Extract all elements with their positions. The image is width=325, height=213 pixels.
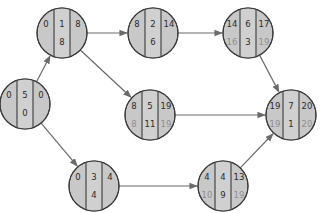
node-late-start-value: 19 <box>270 119 281 129</box>
node-early-finish-value: 0 <box>38 90 43 100</box>
node-late-finish-value: 19 <box>234 190 245 200</box>
node-slack-value: 9 <box>220 190 225 200</box>
node-early-start-value: 8 <box>134 19 139 29</box>
node-early-start-value: 0 <box>43 19 48 29</box>
node-late-finish-value: 19 <box>161 119 172 129</box>
node-e: 851981119 <box>125 90 175 140</box>
node-slack-value: 4 <box>91 190 96 200</box>
nodes-layer: 0500018882146146171631985198111919720191… <box>0 8 316 211</box>
node-late-start-value: 16 <box>227 37 238 47</box>
node-early-start-value: 14 <box>227 19 238 29</box>
node-early-start-value: 0 <box>75 172 80 182</box>
node-slack-value: 0 <box>22 108 27 118</box>
node-early-start-value: 8 <box>131 101 136 111</box>
edge-arrow-h-f <box>240 134 273 168</box>
node-b: 0188 <box>37 8 87 58</box>
node-a: 0500 <box>0 79 50 129</box>
node-late-start-value: 8 <box>131 119 136 129</box>
node-c: 82146 <box>128 8 178 58</box>
node-early-finish-value: 14 <box>164 19 175 29</box>
node-early-finish-value: 4 <box>107 172 112 182</box>
node-duration-value: 4 <box>220 172 225 182</box>
node-early-start-value: 0 <box>6 90 11 100</box>
node-early-finish-value: 13 <box>234 172 245 182</box>
node-h: 441310919 <box>198 161 248 211</box>
node-late-finish-value: 20 <box>302 119 313 129</box>
edge-arrow-a-b <box>37 56 50 82</box>
node-duration-value: 5 <box>147 101 152 111</box>
node-d: 1461716319 <box>223 8 273 58</box>
network-diagram: 0500018882146146171631985198111919720191… <box>0 0 325 213</box>
node-early-start-value: 4 <box>204 172 209 182</box>
node-slack-value: 3 <box>245 37 250 47</box>
node-duration-value: 2 <box>150 19 155 29</box>
node-early-finish-value: 17 <box>259 19 270 29</box>
node-slack-value: 1 <box>288 119 293 129</box>
edge-arrow-b-e <box>80 50 131 97</box>
node-slack-value: 11 <box>145 119 156 129</box>
node-slack-value: 6 <box>150 37 155 47</box>
node-duration-value: 7 <box>288 101 293 111</box>
node-duration-value: 3 <box>91 172 96 182</box>
node-slack-value: 8 <box>59 37 64 47</box>
node-duration-value: 6 <box>245 19 250 29</box>
node-early-finish-value: 19 <box>161 101 172 111</box>
node-late-finish-value: 19 <box>259 37 270 47</box>
node-f: 1972019120 <box>266 90 316 140</box>
node-early-finish-value: 20 <box>302 101 313 111</box>
node-g: 0344 <box>69 161 119 211</box>
edge-arrow-d-f <box>260 55 279 92</box>
edge-arrow-a-g <box>41 123 77 166</box>
node-early-start-value: 19 <box>270 101 281 111</box>
node-duration-value: 5 <box>22 90 27 100</box>
node-late-start-value: 10 <box>202 190 213 200</box>
node-duration-value: 1 <box>59 19 64 29</box>
node-early-finish-value: 8 <box>75 19 80 29</box>
